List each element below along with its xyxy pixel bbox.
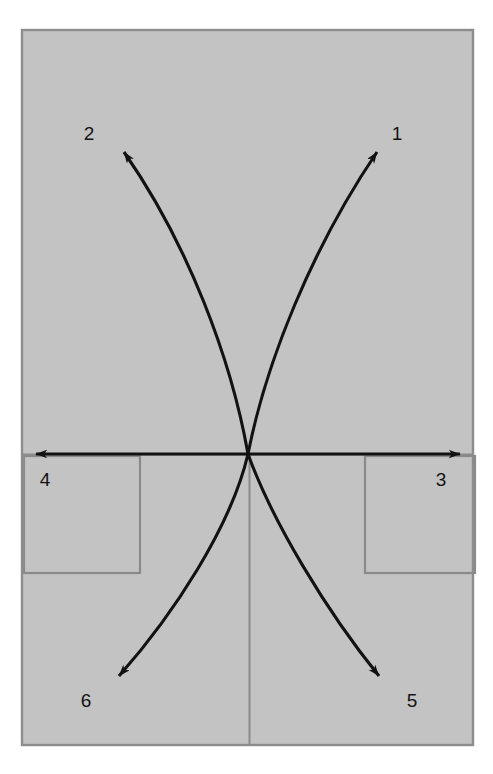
label-1: 1 bbox=[392, 123, 403, 144]
figure-canvas: 1 2 3 4 5 6 bbox=[0, 0, 493, 774]
label-5: 5 bbox=[407, 690, 418, 711]
label-2: 2 bbox=[84, 123, 95, 144]
label-3: 3 bbox=[436, 469, 447, 490]
radial-vector-diagram: 1 2 3 4 5 6 bbox=[0, 0, 493, 774]
label-4: 4 bbox=[40, 469, 51, 490]
label-6: 6 bbox=[81, 690, 92, 711]
